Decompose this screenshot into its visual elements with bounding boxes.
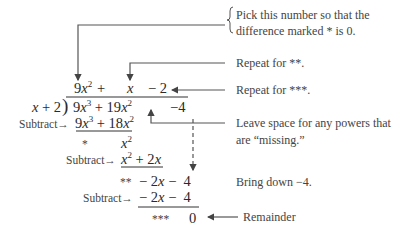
arrow-to-first-quotient-term <box>78 25 225 80</box>
arrow-to-second-quotient-term <box>130 63 225 80</box>
quotient-term-1: 9x2 <box>74 81 92 96</box>
marker-double-star: ** <box>120 177 132 189</box>
difference-2: − 2x − 4 <box>139 174 191 189</box>
subtract-label-2: Subtract→ <box>66 155 116 167</box>
note-repeat-3: Repeat for ***. <box>236 84 310 96</box>
subtract-expr-2: x2 + 2x <box>121 152 161 167</box>
note-remainder: Remainder <box>243 211 296 223</box>
quotient-term-3: − 2 <box>148 81 167 96</box>
remainder-value: 0 <box>189 211 196 226</box>
note-bring-down: Bring down −4. <box>236 176 312 188</box>
subtract-expr-3: − 2x − 4 <box>139 190 191 205</box>
dividend-constant: −4 <box>170 100 185 115</box>
note-pick-line2: difference marked * is 0. <box>236 25 355 37</box>
marker-triple-star: *** <box>152 214 169 226</box>
arrow-missing-power <box>151 110 225 123</box>
subtract-expr-1: 9x3 + 18x2 <box>75 116 134 131</box>
marker-single-star: * <box>82 139 88 151</box>
note-leave-line1: Leave space for any powers that <box>236 117 391 129</box>
dividend: 9x3 + 19x2 <box>73 100 132 115</box>
divisor: x + 2 <box>32 100 61 115</box>
quotient-term-2: x <box>127 81 133 96</box>
division-bracket: ) <box>62 96 68 115</box>
difference-1: x2 <box>121 136 132 151</box>
note-pick-line1: Pick this number so that the <box>236 9 370 21</box>
note-leave-line2: are “missing.” <box>236 134 305 146</box>
quotient-plus: + <box>97 81 105 96</box>
note-repeat-2: Repeat for **. <box>236 57 304 69</box>
subtract-label-1: Subtract→ <box>19 119 69 131</box>
subtract-label-3: Subtract→ <box>83 193 133 205</box>
